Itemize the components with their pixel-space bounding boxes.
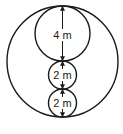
label-2m-lower: 2 m <box>53 97 71 109</box>
circles-diagram: 4 m 2 m 2 m <box>0 0 123 134</box>
label-4m: 4 m <box>53 29 71 41</box>
label-2m-upper: 2 m <box>53 69 71 81</box>
